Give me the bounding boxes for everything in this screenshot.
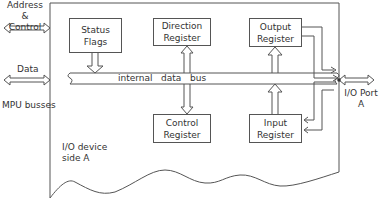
control-register-block: Control Register [153, 114, 211, 143]
block-line: Direction [162, 20, 203, 32]
internal-data-bus-label: internal data bus [118, 73, 206, 84]
block-line: Output [260, 21, 291, 33]
port-label-line: I/O Port [343, 88, 379, 99]
port-label-line: A [343, 99, 379, 110]
block-line: Control [166, 117, 199, 129]
block-line: Register [257, 33, 294, 45]
data-label: Data [17, 64, 39, 75]
block-line: Flags [84, 36, 108, 48]
device-label-line: I/O device [62, 142, 107, 153]
ampersand-text: & [2, 11, 48, 22]
io-port-arrow [339, 75, 374, 85]
bus-to-output-arrow [268, 47, 282, 73]
address-text: Address [2, 0, 48, 11]
status-flags-block: Status Flags [69, 18, 122, 53]
control-text: Control [2, 22, 48, 33]
device-wavy-edge [50, 170, 339, 198]
status-to-bus-arrow [87, 53, 103, 73]
output-register-block: Output Register [249, 18, 302, 47]
address-control-label: Address & Control [2, 0, 48, 33]
block-line: Register [163, 32, 200, 44]
block-line: Status [81, 24, 110, 36]
data-arrow [4, 75, 50, 85]
mpu-busses-label: MPU busses [2, 100, 56, 111]
block-line: Register [257, 129, 294, 141]
block-line: Register [163, 129, 200, 141]
input-to-bus-arrow [268, 84, 282, 114]
device-label-line: side A [62, 153, 107, 164]
input-register-block: Input Register [249, 114, 302, 143]
io-port-label: I/O Port A [343, 88, 379, 110]
direction-register-block: Direction Register [153, 18, 211, 46]
output-to-port-lines [302, 27, 336, 78]
device-label: I/O device side A [62, 142, 107, 164]
block-line: Input [264, 117, 287, 129]
port-to-input-lines [305, 82, 336, 130]
